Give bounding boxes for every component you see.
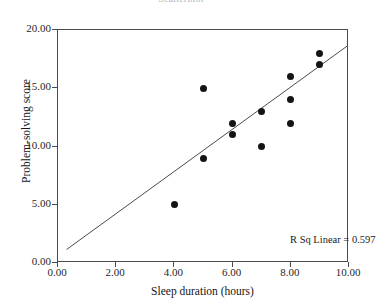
x-axis-tick-label: 2.00 (90, 266, 140, 278)
data-point (229, 120, 236, 127)
x-axis-tick-labels: 0.002.004.006.008.0010.00 (57, 266, 348, 282)
plot-area: R Sq Linear = 0.597 (57, 29, 348, 262)
data-point (200, 155, 207, 162)
x-axis-tick-label: 4.00 (148, 266, 198, 278)
data-point (287, 120, 294, 127)
x-axis-tick-label: 10.00 (323, 266, 373, 278)
x-axis-tick-label: 6.00 (207, 266, 257, 278)
plot-surface (58, 30, 347, 261)
x-axis-tick-label: 0.00 (32, 266, 82, 278)
chart-title: Scatterplot (0, 0, 362, 2)
x-axis-title: Sleep duration (hours) (57, 285, 348, 297)
y-axis-tick-marks (0, 29, 57, 262)
x-axis-tick-label: 8.00 (265, 266, 315, 278)
data-point (200, 85, 207, 92)
r-squared-annotation: R Sq Linear = 0.597 (290, 234, 376, 245)
regression-line (58, 30, 347, 261)
